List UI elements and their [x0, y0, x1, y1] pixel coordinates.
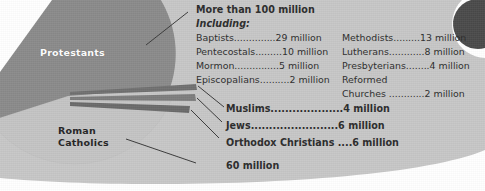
breakdown-row-methodists: Methodists.........13 million	[342, 32, 466, 43]
callout-row-muslims: Muslims....................4 million	[226, 103, 390, 114]
breakdown-row-baptists: Baptists..............29 million	[196, 32, 322, 43]
breakdown-row-presbyterians: Presbyterians........4 million	[342, 60, 470, 71]
callout-row-jews: Jews........................6 million	[226, 120, 385, 131]
pie-label-roman-catholics: RomanCatholics	[58, 125, 109, 149]
breakdown-row-reformed-churches: Churches ............2 million	[342, 88, 465, 99]
breakdown-row-episcopalians: Episcopalians..........2 million	[196, 74, 330, 85]
pie-chart-infographic: Protestants RomanCatholics More than 100…	[0, 0, 485, 191]
breakdown-row-lutherans: Lutherans............8 million	[342, 46, 465, 57]
callout-including-label: Including:	[196, 18, 250, 29]
pie-label-roman-line2: Catholics	[58, 137, 109, 148]
breakdown-row-pentecostals: Pentecostals.........10 million	[196, 46, 328, 57]
pie-label-roman-line1: Roman	[58, 125, 96, 136]
callout-heading-protestants: More than 100 million	[196, 4, 315, 15]
callout-row-orthodox-christians: Orthodox Christians ....6 million	[226, 137, 399, 148]
pie-label-protestants: Protestants	[40, 47, 105, 59]
breakdown-row-reformed: Reformed	[342, 74, 387, 85]
breakdown-row-mormon: Mormon...............5 million	[196, 60, 319, 71]
callout-row-60-million: 60 million	[226, 160, 279, 171]
